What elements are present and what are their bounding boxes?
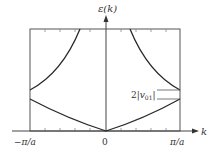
band-structure-diagram: 2|v01| ε(k) k −π/a 0 π/a	[0, 0, 214, 155]
k-axis-label: k	[201, 126, 207, 137]
k-axis-arrow-icon	[192, 129, 199, 134]
upper-band-right-curve	[130, 29, 180, 90]
tick-label-minus-pi-over-a: −π/a	[14, 137, 36, 147]
tick-label-pi-over-a: π/a	[169, 137, 184, 147]
tick-label-zero: 0	[102, 137, 108, 147]
energy-axis-arrow-icon	[104, 15, 109, 22]
energy-axis-label: ε(k)	[98, 3, 117, 14]
gap-label: 2|v01|	[131, 90, 156, 101]
upper-band-left-curve	[30, 29, 80, 90]
brillouin-zone-frame	[30, 29, 180, 131]
lower-band-curve	[30, 99, 180, 131]
